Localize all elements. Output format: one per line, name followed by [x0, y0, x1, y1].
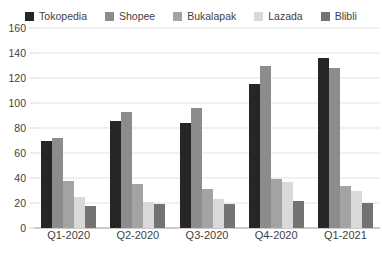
bar-tokopedia-q4-2020[interactable] — [249, 84, 260, 228]
bar-group-q1-2020 — [34, 28, 103, 228]
bar-groups — [34, 28, 380, 228]
bar-shopee-q3-2020[interactable] — [191, 108, 202, 228]
bar-tokopedia-q2-2020[interactable] — [110, 121, 121, 229]
bar-group-q3-2020 — [172, 28, 241, 228]
x-axis-tick-label: Q1-2021 — [311, 230, 380, 250]
bar-group-q2-2020 — [103, 28, 172, 228]
bar-shopee-q2-2020[interactable] — [121, 112, 132, 228]
x-axis-tick-label: Q1-2020 — [34, 230, 103, 250]
bar-group-q4-2020 — [242, 28, 311, 228]
x-axis-tick-label: Q2-2020 — [103, 230, 172, 250]
bar-lazada-q2-2020[interactable] — [143, 202, 154, 228]
y-axis-tick-label: 60 — [14, 148, 26, 159]
bar-blibli-q4-2020[interactable] — [293, 201, 304, 229]
bar-lazada-q4-2020[interactable] — [282, 182, 293, 228]
y-axis-tick-label: 140 — [8, 48, 26, 59]
legend-label: Shopee — [119, 11, 155, 22]
bar-shopee-q1-2020[interactable] — [52, 138, 63, 228]
legend-swatch-icon — [105, 12, 114, 21]
y-axis-tick-label: 0 — [20, 223, 26, 234]
legend-item-shopee[interactable]: Shopee — [105, 11, 155, 22]
x-axis-tick-label: Q4-2020 — [242, 230, 311, 250]
y-axis-tick-label: 160 — [8, 23, 26, 34]
y-axis-tick-label: 40 — [14, 173, 26, 184]
legend-swatch-icon — [173, 12, 182, 21]
legend-swatch-icon — [321, 12, 330, 21]
x-axis-tick-label: Q3-2020 — [172, 230, 241, 250]
bar-chart: TokopediaShopeeBukalapakLazadaBlibli 160… — [0, 0, 382, 257]
bar-shopee-q1-2021[interactable] — [329, 68, 340, 228]
legend-item-bukalapak[interactable]: Bukalapak — [173, 11, 236, 22]
bar-blibli-q2-2020[interactable] — [154, 204, 165, 228]
legend-swatch-icon — [25, 12, 34, 21]
legend-label: Tokopedia — [39, 11, 87, 22]
bar-blibli-q1-2021[interactable] — [362, 203, 373, 228]
bar-bukalapak-q2-2020[interactable] — [132, 184, 143, 228]
legend-label: Bukalapak — [187, 11, 236, 22]
bar-bukalapak-q1-2020[interactable] — [63, 181, 74, 229]
legend-item-blibli[interactable]: Blibli — [321, 11, 357, 22]
y-axis: 160140120100806040200 — [0, 28, 30, 228]
legend-item-lazada[interactable]: Lazada — [254, 11, 302, 22]
legend-swatch-icon — [254, 12, 263, 21]
bar-bukalapak-q3-2020[interactable] — [202, 189, 213, 228]
legend-label: Blibli — [335, 11, 357, 22]
chart-legend: TokopediaShopeeBukalapakLazadaBlibli — [0, 6, 382, 26]
bar-lazada-q1-2021[interactable] — [351, 191, 362, 229]
x-axis: Q1-2020Q2-2020Q3-2020Q4-2020Q1-2021 — [34, 230, 380, 250]
y-axis-tick-label: 80 — [14, 123, 26, 134]
plot-area: 160140120100806040200 — [0, 28, 382, 228]
bar-blibli-q3-2020[interactable] — [224, 204, 235, 228]
bar-bukalapak-q1-2021[interactable] — [340, 186, 351, 229]
y-axis-tick-label: 100 — [8, 98, 26, 109]
bar-bukalapak-q4-2020[interactable] — [271, 179, 282, 228]
y-axis-tick-label: 20 — [14, 198, 26, 209]
bar-tokopedia-q1-2021[interactable] — [318, 58, 329, 228]
y-axis-tick-label: 120 — [8, 73, 26, 84]
plot-canvas — [34, 28, 380, 228]
legend-item-tokopedia[interactable]: Tokopedia — [25, 11, 87, 22]
bar-lazada-q3-2020[interactable] — [213, 199, 224, 228]
bar-group-q1-2021 — [311, 28, 380, 228]
legend-label: Lazada — [268, 11, 302, 22]
bar-tokopedia-q1-2020[interactable] — [41, 141, 52, 229]
bar-tokopedia-q3-2020[interactable] — [180, 123, 191, 228]
bar-blibli-q1-2020[interactable] — [85, 206, 96, 229]
bar-lazada-q1-2020[interactable] — [74, 197, 85, 228]
bar-shopee-q4-2020[interactable] — [260, 66, 271, 229]
